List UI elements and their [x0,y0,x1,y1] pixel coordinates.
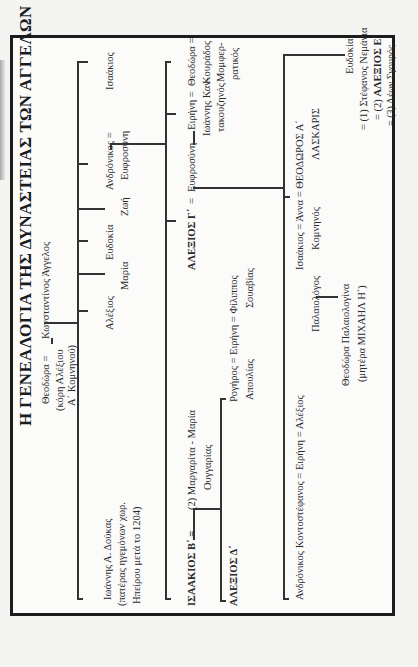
gen4-anna-note-2: ΛΑΣΚΑΡΙΣ [310,108,322,160]
tick [77,241,88,243]
gen4-irene-marriages: Ανδρόνικος Κοντοστέφανος = Ειρήνη = Αλέξ… [294,395,306,600]
gen4-alexios-4: ΑΛΕΞΙΟΣ Δ΄ [228,546,240,606]
genealogy-diagram: Η ΓΕΝΕΑΛΟΓΙΑ ΤΗΣ ΔΥΝΑΣΤΕΙΑΣ ΤΩΝ ΑΓΓΕΛΩΝ … [10,35,395,616]
gen3-irene-spouse-2: τακουζηνός [215,83,227,132]
gen5-theodora-note: (μητέρα ΜΙΧΑΗΛ Η΄) [356,285,368,382]
gen4-eudokia-marriage-3: = (3) Λέων Σγουρός [385,45,397,126]
gen2-ioannis: Ιωάννης Α. Δούκας [102,519,114,600]
gen2-zoe: Ζωή [119,197,131,216]
gen5-theodora: Θεοδώρα Παλαιολογίνα [340,284,352,386]
gen4-irene-note-1: Απουλίας [244,359,256,400]
gen3-sibling-bar [165,62,167,600]
marriage-connector [193,131,195,145]
gen4-eudokia-marriage-1: = (1) Στέφανος Νεμάνια [358,27,370,130]
gen3-alexios-descent-line [193,188,283,190]
gen1-wife-note-1: (κόρη Αλέξιου [54,349,66,411]
tick [77,164,88,166]
gen2-isaakios: Ισαάκιος [104,52,116,90]
gen3-theodora-spouse-2: Μομφερ- [215,43,227,82]
tick [77,274,105,276]
diagram-title: Η ΓΕΝΕΑΛΟΓΙΑ ΤΗΣ ΔΥΝΑΣΤΕΙΑΣ ΤΩΝ ΑΓΓΕΛΩΝ [16,6,36,426]
gen2-sibling-bar [77,62,79,600]
gen3-isaac-descent-line [193,509,220,511]
gen2-maria: Μαρία [119,262,131,290]
gen2-andronikos: Ανδρόνικος = [104,132,116,190]
gen3-irene-spouse-1: Ιωάννης Καν- [201,77,213,136]
gen4-irene-note: Παλαιολόγος [310,276,322,332]
gen4-anna-note-1: Κομνηνός [310,207,322,250]
tick [77,311,88,313]
eudokia-line [283,55,345,57]
gen2-ioannis-note-1: (πατέρας ηγεμόνων χωρ. [116,502,128,606]
gen4-alexios-sibling-bar [283,55,285,600]
gen4-irene-note-2: Σουαβίας [244,268,256,308]
tick [165,62,171,64]
alexios-5: ΑΛΕΞΙΟΣ Ε΄ [372,35,383,96]
gen3-theodora: Θεοδώρα = [186,38,198,86]
gen3-isaakios-2: ΙΣΑΑΚΙΟΣ Β΄ = [186,531,198,606]
gen4-eudokia-marriage-2: = (2) ΑΛΕΞΙΟΣ Ε΄ [372,35,384,120]
marriage-connector [193,510,195,540]
gen3-theodora-spouse-3: ρατικός [229,48,241,80]
tick [77,209,105,211]
tick [283,197,290,199]
tick [220,399,226,401]
gen1-husband: Κωνσταντίνος Άγγελος [40,242,52,339]
scan-shadow [0,60,5,180]
marriage-prefix: = (2) [372,97,383,120]
gen3-isaakios-spouse-note: Ουγγαρίας [202,445,214,490]
tick [165,599,171,601]
gen2-ioannis-note-2: Ηπείρου μετά το 1204) [131,507,143,604]
gen3-isaakios-spouse: (2) Μαργαρίτα - Μαρία [186,410,198,510]
gen3-theodora-spouse-1: Κουράδος [201,41,213,84]
gen3-alexios-3-spouse: Ευφροσύνη [186,143,198,192]
gen4-anna-marriages: Ισαάκιος = Άννα = ΘΕΟΔΩΡΟΣ Α΄ [294,120,306,270]
tick [165,114,176,116]
gen3-irene: Ειρήνη = [186,91,198,130]
tick [220,601,226,603]
gen2-eudokia: Ευδοκία [104,225,116,260]
gen1-wife: Θεοδώρα = [40,356,52,404]
gen4-eudokia: Ευδοκία [344,39,356,74]
gen2-alexios: Αλέξιος [104,296,116,330]
gen2-descent-line [110,144,165,146]
marriage-connector [51,338,53,344]
gen3-alexios-3-eq: = [186,198,198,204]
marriage-connector [110,144,112,150]
gen4-irene-line: Ρογήρος = Ειρήνη = Φίλιππος [228,275,240,402]
gen1-descent-line [44,323,78,325]
tick [165,221,176,223]
gen4-isaac-sibling-bar [220,398,222,602]
tick [77,62,88,64]
gen4-irene-descent-line [316,297,338,299]
gen2-andronikos-spouse: Ευφροσύνη [119,131,131,180]
tick [77,599,83,601]
tick [283,599,289,601]
gen3-alexios-3: ΑΛΕΞΙΟΣ Γ΄ [186,209,198,270]
